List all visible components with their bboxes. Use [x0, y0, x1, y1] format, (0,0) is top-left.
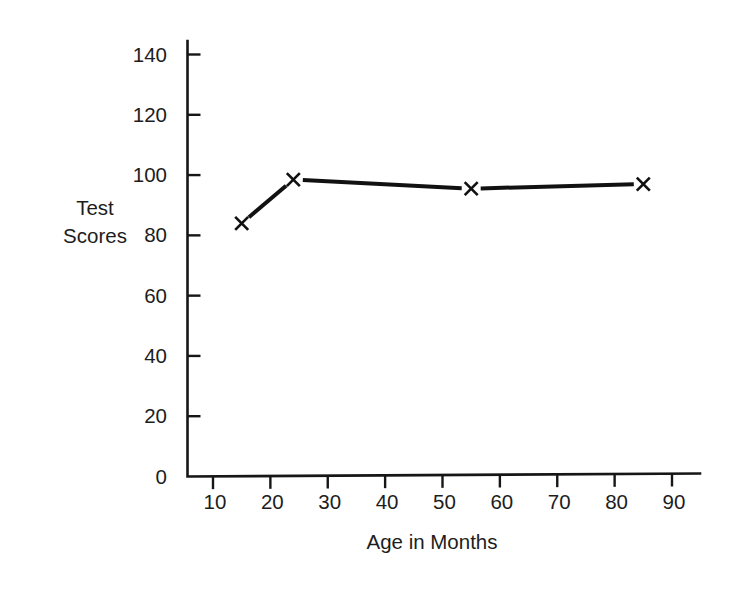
x-tick-label-20: 20	[261, 490, 284, 513]
data-point-2	[465, 182, 478, 195]
line-chart: 020406080100120140 102030405060708090 Te…	[0, 0, 738, 590]
x-axis-title: Age in Months	[366, 530, 497, 553]
y-tick-label-100: 100	[133, 163, 167, 186]
y-axis-title-line1: Test	[76, 196, 114, 219]
x-tick-label-30: 30	[318, 490, 341, 513]
series-segment-0	[249, 186, 286, 217]
x-tick-label-60: 60	[490, 490, 513, 513]
x-tick-label-50: 50	[433, 490, 456, 513]
series-segment-1	[303, 180, 462, 188]
x-tick-label-70: 70	[548, 490, 571, 513]
y-tick-label-60: 60	[144, 284, 167, 307]
x-tick-label-40: 40	[376, 490, 399, 513]
series-segment-2	[481, 184, 634, 188]
y-axis-ticks	[188, 55, 201, 417]
data-point-markers	[235, 173, 650, 230]
data-series-line	[249, 180, 634, 217]
y-axis-title-line2: Scores	[63, 224, 127, 247]
axes	[188, 41, 701, 477]
data-point-0	[235, 217, 248, 230]
x-tick-label-80: 80	[605, 490, 628, 513]
y-tick-label-20: 20	[144, 404, 167, 427]
data-point-3	[637, 178, 650, 191]
y-tick-label-120: 120	[133, 103, 167, 126]
chart-container: 020406080100120140 102030405060708090 Te…	[0, 0, 738, 590]
y-axis-tick-labels: 020406080100120140	[133, 43, 167, 488]
x-tick-label-90: 90	[663, 490, 686, 513]
y-tick-label-40: 40	[144, 344, 167, 367]
y-tick-label-140: 140	[133, 43, 167, 66]
data-point-1	[287, 173, 300, 186]
axis-lines	[188, 41, 701, 477]
x-tick-label-10: 10	[204, 490, 227, 513]
y-tick-label-0: 0	[156, 465, 167, 488]
x-axis-tick-labels: 102030405060708090	[204, 490, 686, 513]
y-tick-label-80: 80	[144, 223, 167, 246]
